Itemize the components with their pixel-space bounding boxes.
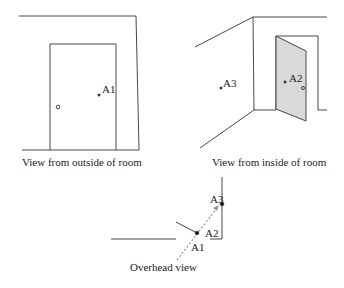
overhead-label-a3: A3 bbox=[210, 193, 223, 205]
inside-corner bbox=[253, 17, 254, 110]
diagram-canvas bbox=[0, 0, 344, 288]
caption-inside: View from inside of room bbox=[212, 156, 326, 168]
caption-outside: View from outside of room bbox=[22, 156, 142, 168]
outside-view bbox=[19, 16, 139, 150]
point-a2-dot bbox=[284, 81, 286, 83]
inside-ceiling-left bbox=[195, 17, 253, 47]
overhead-open-door bbox=[176, 222, 197, 233]
inside-view bbox=[195, 17, 327, 148]
door-knob-icon bbox=[56, 105, 60, 109]
overhead-view bbox=[111, 177, 224, 260]
overhead-label-a1: A1 bbox=[191, 241, 204, 253]
point-a1-dot bbox=[98, 94, 100, 96]
overhead-label-a2: A2 bbox=[205, 227, 218, 239]
label-a3: A3 bbox=[223, 77, 236, 89]
point-a3-dot bbox=[220, 87, 222, 89]
caption-overhead: Overhead view bbox=[130, 261, 197, 273]
inside-floor-left bbox=[200, 110, 254, 148]
label-a1: A1 bbox=[102, 83, 115, 95]
label-a2: A2 bbox=[289, 72, 302, 84]
point-a2-dot bbox=[195, 231, 199, 235]
arrowhead-icon bbox=[213, 205, 219, 211]
outside-wall bbox=[19, 16, 139, 150]
outside-door bbox=[50, 44, 116, 150]
